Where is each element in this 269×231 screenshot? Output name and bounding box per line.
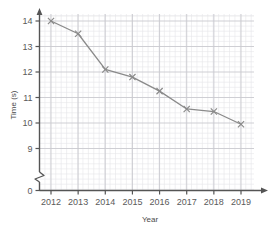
y-axis-break-icon [35,172,44,182]
x-tick-label: 2013 [68,197,88,207]
y-tick-label: 9 [27,144,32,154]
y-tick-label: 14 [22,16,32,26]
y-axis-title: Time (s) [9,90,18,119]
y-axis-arrow-icon [37,8,43,15]
x-tick-label: 2018 [204,197,224,207]
line-chart: 091011121314 201220132014201520162017201… [0,0,269,231]
y-tick-label: 13 [22,42,32,52]
y-axis-tick-labels: 091011121314 [22,16,32,196]
axes [35,8,268,193]
x-tick-label: 2017 [177,197,197,207]
x-tick-label: 2014 [95,197,115,207]
y-tick-label: 0 [27,186,32,196]
x-tick-label: 2012 [41,197,61,207]
y-tick-label: 11 [23,93,32,103]
y-tick-label: 12 [22,67,32,77]
x-axis-title: Year [142,215,159,224]
x-tick-label: 2015 [122,197,142,207]
x-tick-label: 2019 [231,197,251,207]
chart-canvas: 091011121314 201220132014201520162017201… [0,0,269,231]
x-axis-arrow-icon [261,188,268,194]
x-axis-tick-labels: 20122013201420152016201720182019 [41,197,251,207]
y-tick-label: 10 [22,118,32,128]
minor-gridlines [40,14,255,191]
x-tick-label: 2016 [150,197,170,207]
